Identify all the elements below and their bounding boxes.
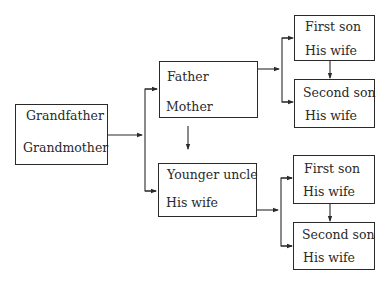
label-father: Father bbox=[167, 70, 209, 84]
label-first-son: First son bbox=[305, 20, 361, 34]
label-grandfather: Grandfather bbox=[26, 109, 104, 123]
label-second-son-wife: His wife bbox=[303, 251, 355, 265]
label-second-son: Second son bbox=[303, 86, 376, 100]
label-uncle-wife: His wife bbox=[166, 196, 218, 210]
label-first-son: First son bbox=[304, 162, 360, 176]
label-mother: Mother bbox=[166, 100, 213, 114]
label-second-son-wife: His wife bbox=[305, 109, 357, 123]
label-grandmother: Grandmother bbox=[23, 141, 108, 155]
label-younger-uncle: Younger uncle bbox=[167, 168, 258, 182]
label-second-son: Second son bbox=[302, 228, 375, 242]
label-first-son-wife: His wife bbox=[303, 185, 355, 199]
label-first-son-wife: His wife bbox=[305, 44, 357, 58]
